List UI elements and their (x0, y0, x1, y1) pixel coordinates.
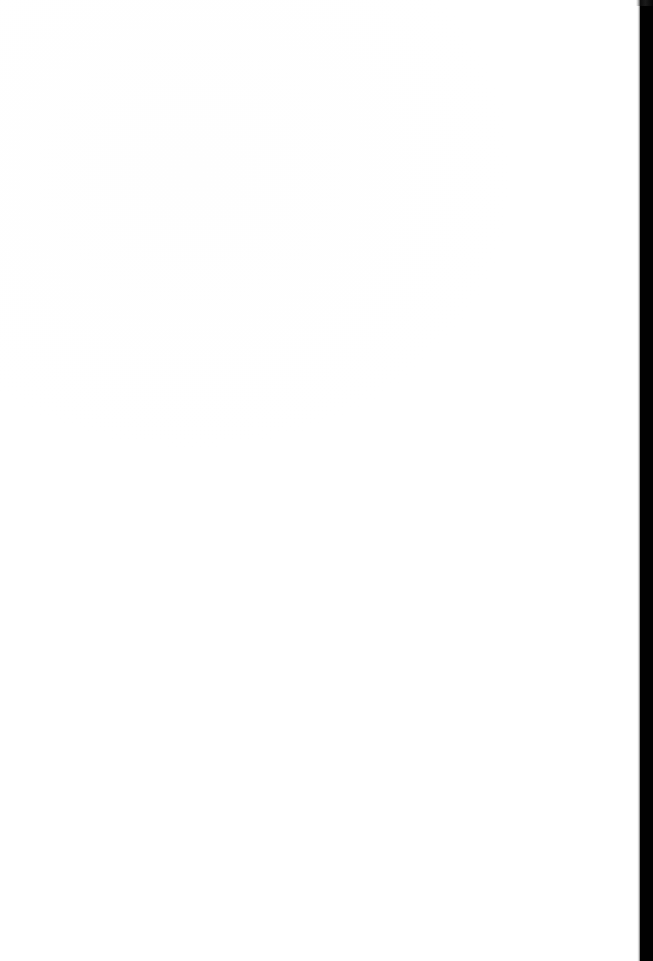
paper-sheet (0, 0, 641, 961)
bottom-smudge (338, 954, 454, 961)
top-edge-shadow (0, 0, 641, 4)
speck-artifact (487, 356, 491, 361)
page-content-area (58, 70, 571, 881)
scanner-gutter (640, 0, 653, 961)
bottom-edge-haze (40, 949, 600, 961)
left-edge-line (2, 2, 4, 942)
scanned-page (0, 0, 653, 961)
